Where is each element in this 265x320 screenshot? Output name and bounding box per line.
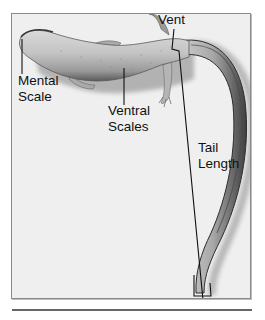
- figure-frame: Vent Mental Scale Ventral Scales Tail Le…: [11, 13, 251, 299]
- separator-line: [12, 309, 252, 311]
- label-ventral-scales-line1: Ventral: [108, 103, 150, 118]
- label-ventral-scales-line2: Scales: [108, 119, 149, 134]
- label-mental-scale-line2: Scale: [18, 89, 52, 104]
- label-vent: Vent: [158, 13, 185, 27]
- label-mental-scale-line1: Mental: [18, 73, 59, 88]
- label-tail-length-line1: Tail: [198, 140, 218, 155]
- label-tail-length-line2: Length: [198, 156, 239, 171]
